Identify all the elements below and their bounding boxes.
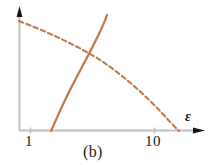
panel-caption: (b) (83, 144, 103, 160)
x-axis-arrowhead (193, 127, 205, 133)
dashed-curve (19, 21, 179, 131)
x-tick-label-10: 10 (145, 134, 161, 149)
x-tick-label-1: 1 (25, 134, 33, 149)
solid-curve (51, 15, 107, 131)
y-axis-arrowhead (17, 6, 23, 17)
figure-panel-b: 1 10 ε (b) (0, 0, 209, 165)
x-axis-label-epsilon: ε (185, 110, 191, 124)
